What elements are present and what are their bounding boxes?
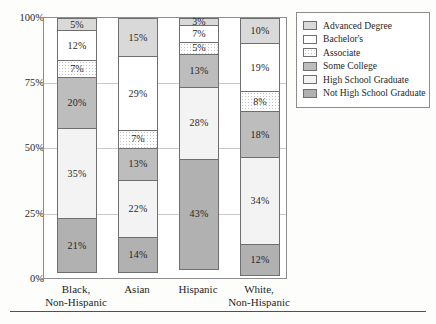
y-tick-mark	[37, 279, 43, 280]
segment-label: 35%	[68, 169, 87, 179]
bar-black-non-hispanic[interactable]: 5% 12% 7% 20% 35% 21%	[57, 18, 97, 278]
segment-advanced-degree[interactable]: 10%	[240, 18, 280, 44]
segment-label: 29%	[129, 89, 148, 99]
segment-not-high-school-graduate[interactable]: 43%	[179, 159, 219, 271]
x-label-line-2: Non-Hispanic	[199, 296, 319, 309]
legend-label: Not High School Graduate	[323, 88, 426, 98]
segment-label: 21%	[68, 241, 87, 251]
chart-figure: 100% 75% 50% 25% 0% 5% 12% 7% 20% 35% 21…	[0, 0, 436, 324]
segment-some-college[interactable]: 13%	[118, 148, 158, 182]
bar-white-non-hispanic[interactable]: 10% 19% 8% 18% 34% 12%	[240, 18, 280, 278]
legend-item-associate[interactable]: Associate	[303, 46, 424, 60]
segment-some-college[interactable]: 13%	[179, 54, 219, 88]
segment-label: 13%	[129, 159, 148, 169]
segment-associate[interactable]: 7%	[57, 60, 97, 78]
segment-associate[interactable]: 7%	[118, 130, 158, 148]
segment-label: 18%	[251, 130, 270, 140]
segment-label: 7%	[70, 64, 84, 74]
y-axis-tick-75: 75%	[4, 78, 44, 89]
legend-label: Associate	[323, 48, 360, 58]
segment-associate[interactable]: 8%	[240, 91, 280, 112]
plot-area: 5% 12% 7% 20% 35% 21% 15% 29% 7% 13% 22%…	[43, 17, 287, 279]
segment-label: 28%	[190, 118, 209, 128]
segment-bachelors[interactable]: 7%	[179, 25, 219, 43]
segment-label: 43%	[190, 209, 209, 219]
legend-swatch-bachelors	[303, 35, 317, 44]
footer-rule	[10, 311, 426, 312]
chart-legend: Advanced Degree Bachelor's Associate Som…	[296, 12, 430, 108]
segment-some-college[interactable]: 20%	[57, 77, 97, 129]
legend-swatch-advanced-degree	[303, 21, 317, 30]
segment-not-high-school-graduate[interactable]: 12%	[240, 244, 280, 275]
legend-swatch-high-school-graduate	[303, 75, 317, 84]
segment-high-school-graduate[interactable]: 22%	[118, 180, 158, 237]
segment-label: 5%	[70, 20, 84, 30]
legend-item-high-school-graduate[interactable]: High School Graduate	[303, 73, 424, 87]
x-axis-label-white-non-hispanic: White, Non-Hispanic	[199, 283, 319, 309]
legend-label: High School Graduate	[323, 75, 409, 85]
legend-swatch-some-college	[303, 62, 317, 71]
x-label-line-2: Non-Hispanic	[16, 296, 136, 309]
legend-label: Some College	[323, 61, 377, 71]
segment-label: 12%	[251, 255, 270, 265]
segment-label: 20%	[68, 98, 87, 108]
segment-label: 15%	[129, 33, 148, 43]
segment-high-school-graduate[interactable]: 35%	[57, 128, 97, 219]
segment-high-school-graduate[interactable]: 34%	[240, 157, 280, 245]
segment-label: 34%	[251, 196, 270, 206]
segment-label: 8%	[253, 97, 267, 107]
segment-bachelors[interactable]: 29%	[118, 56, 158, 131]
segment-label: 12%	[68, 41, 87, 51]
segment-advanced-degree[interactable]: 15%	[118, 18, 158, 57]
bar-hispanic[interactable]: 3% 7% 5% 13% 28% 43%	[179, 18, 219, 278]
segment-label: 5%	[192, 43, 206, 53]
legend-swatch-associate	[303, 48, 317, 57]
legend-swatch-not-high-school-graduate	[303, 89, 317, 98]
segment-label: 14%	[129, 250, 148, 260]
bar-asian[interactable]: 15% 29% 7% 13% 22% 14%	[118, 18, 158, 278]
segment-not-high-school-graduate[interactable]: 14%	[118, 237, 158, 273]
y-axis-tick-25: 25%	[4, 209, 44, 220]
legend-item-not-high-school-graduate[interactable]: Not High School Graduate	[303, 87, 424, 101]
segment-bachelors[interactable]: 12%	[57, 30, 97, 61]
segment-label: 7%	[131, 134, 145, 144]
segment-some-college[interactable]: 18%	[240, 111, 280, 158]
legend-item-some-college[interactable]: Some College	[303, 60, 424, 74]
segment-not-high-school-graduate[interactable]: 21%	[57, 218, 97, 273]
segment-label: 10%	[251, 26, 270, 36]
legend-item-bachelors[interactable]: Bachelor's	[303, 33, 424, 47]
segment-high-school-graduate[interactable]: 28%	[179, 87, 219, 160]
legend-label: Advanced Degree	[323, 21, 392, 31]
y-axis-tick-100: 100%	[4, 13, 44, 24]
x-label-line-1: White,	[199, 283, 319, 296]
segment-label: 22%	[129, 204, 148, 214]
segment-label: 13%	[190, 66, 209, 76]
legend-item-advanced-degree[interactable]: Advanced Degree	[303, 19, 424, 33]
segment-label: 19%	[251, 63, 270, 73]
legend-label: Bachelor's	[323, 34, 363, 44]
segment-bachelors[interactable]: 19%	[240, 43, 280, 92]
segment-label: 7%	[192, 29, 206, 39]
